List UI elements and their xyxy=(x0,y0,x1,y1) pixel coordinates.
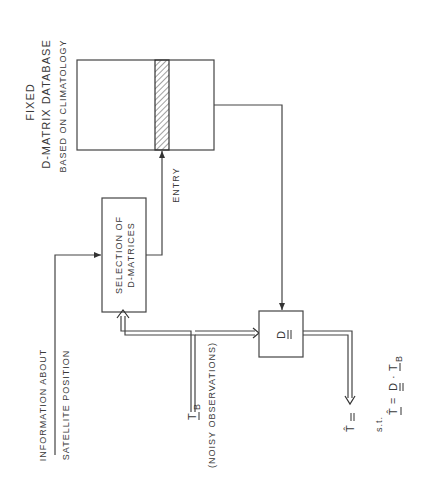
d-matrix-box: D xyxy=(259,311,303,357)
database-title-fixed: FIXED xyxy=(24,83,36,120)
retrieval-diagram: FIXED D-MATRIX DATABASE BASED ON CLIMATO… xyxy=(0,0,426,496)
such-that-label: s.t. xyxy=(374,416,384,432)
formula-subscript-b: B xyxy=(394,355,404,362)
d-matrix-database-box xyxy=(77,60,214,150)
observations-double-line xyxy=(117,310,259,412)
output-formula: T̂ = D · T B xyxy=(386,355,404,415)
noisy-observations-label: (NOISY OBSERVATIONS) xyxy=(207,342,217,468)
tb-symbol: T B xyxy=(186,403,202,420)
satellite-info-line1: INFORMATION ABOUT xyxy=(38,349,48,461)
t-hat-output: T̂ xyxy=(343,413,356,432)
satellite-info-line2: SATELLITE POSITION xyxy=(61,350,71,460)
selection-box: SELECTION OF D-MATRICES xyxy=(102,198,146,312)
formula-t: T xyxy=(387,363,399,371)
formula-equals: = xyxy=(387,397,399,404)
formula-t-hat: T̂ xyxy=(386,407,399,415)
entry-connector xyxy=(146,151,162,255)
database-to-d-connector xyxy=(214,105,282,310)
t-hat-symbol: T̂ xyxy=(343,424,356,432)
d-symbol: D xyxy=(275,330,287,339)
tb-subscript: B xyxy=(192,403,202,410)
database-subtitle: BASED ON CLIMATOLOGY xyxy=(58,39,68,172)
tb-letter: T xyxy=(186,412,198,420)
formula-d: D xyxy=(387,382,399,391)
database-title-main: D-MATRIX DATABASE xyxy=(40,39,52,168)
selection-label-line2: D-MATRICES xyxy=(126,222,136,287)
output-double-line xyxy=(303,331,355,404)
database-entry-strip xyxy=(155,60,169,150)
selection-label-line1: SELECTION OF xyxy=(114,216,124,294)
database-labels: FIXED D-MATRIX DATABASE BASED ON CLIMATO… xyxy=(24,39,68,172)
formula-dot: · xyxy=(387,374,399,379)
entry-label: ENTRY xyxy=(171,167,181,202)
